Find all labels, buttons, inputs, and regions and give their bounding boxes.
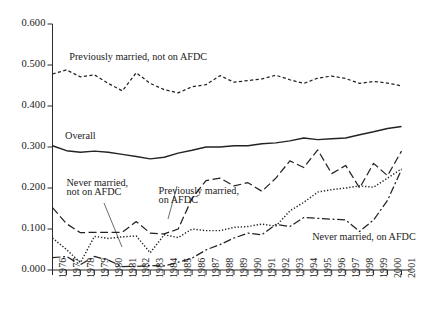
x-tick-label: 1987 [210, 258, 221, 278]
series-annotation-label: Never married, on AFDC [312, 231, 416, 243]
x-tick-label: 1990 [252, 258, 263, 278]
x-tick-label: 1996 [336, 258, 347, 278]
x-tick-label: 1984 [168, 258, 179, 278]
x-tick-label: 1979 [99, 258, 110, 278]
y-tick-label: 0.400 [2, 99, 46, 110]
x-tick-label: 1989 [238, 258, 249, 278]
x-tick-label: 1985 [182, 258, 193, 278]
series-line [53, 70, 402, 93]
x-tick-label: 1994 [308, 258, 319, 278]
x-tick-label: 1991 [266, 258, 277, 278]
y-tick-label: 0.300 [2, 140, 46, 151]
x-tick-label: 1982 [140, 258, 151, 278]
series-annotation-label: Overall [65, 130, 96, 142]
x-tick-label: 1998 [364, 258, 375, 278]
x-tick-label: 1981 [127, 258, 138, 278]
x-tick-label: 2000 [392, 258, 403, 278]
x-tick-label: 1988 [224, 258, 235, 278]
series-line [53, 127, 402, 159]
y-tick-label: 0.200 [2, 181, 46, 192]
y-tick-label: 0.000 [2, 263, 46, 274]
series-annotation-label: on AFDC [159, 194, 198, 206]
x-tick-label: 1999 [378, 258, 389, 278]
y-tick-label: 0.500 [2, 58, 46, 69]
x-tick-label: 1995 [322, 258, 333, 278]
x-tick-label: 1997 [350, 258, 361, 278]
y-tick-label: 0.600 [2, 17, 46, 28]
x-tick-label: 1976 [57, 258, 68, 278]
x-tick-label: 1980 [113, 258, 124, 278]
annotation-leader-line [104, 203, 122, 247]
x-tick-label: 1978 [85, 258, 96, 278]
x-tick-label: 2001 [406, 258, 417, 278]
x-tick-label: 1993 [294, 258, 305, 278]
x-tick-label: 1977 [71, 258, 82, 278]
series-annotation-label: Previously married, not on AFDC [69, 51, 207, 63]
x-tick-label: 1983 [154, 258, 165, 278]
x-tick-label: 1986 [196, 258, 207, 278]
chart-figure: 0.0000.1000.2000.3000.4000.5000.600 1976… [0, 0, 421, 313]
series-annotation-label: not on AFDC [67, 186, 122, 198]
y-tick-label: 0.100 [2, 222, 46, 233]
x-tick-label: 1992 [280, 258, 291, 278]
